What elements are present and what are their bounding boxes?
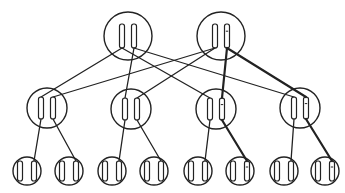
- chromosome-bar: [220, 98, 225, 120]
- chromosome-bar: [32, 161, 37, 181]
- node-b3: [98, 157, 126, 185]
- edge: [53, 119, 76, 161]
- node-m2: [111, 89, 151, 129]
- chromosome-bar: [159, 161, 164, 181]
- chromosome-bar: [245, 161, 250, 181]
- nodes-layer: [13, 12, 339, 185]
- chromosome-bar: [103, 161, 108, 181]
- chromosome-bar: [117, 161, 122, 181]
- tree-diagram: [0, 0, 345, 193]
- edge-highlighted: [306, 119, 332, 161]
- edge: [137, 48, 215, 98]
- node-circle: [104, 12, 152, 60]
- chromosome-bar: [60, 161, 65, 181]
- chromosome-bar: [189, 161, 194, 181]
- chromosome-bar: [74, 161, 79, 181]
- chromosome-bar: [120, 24, 125, 48]
- chromosome-bar: [132, 24, 137, 48]
- chromosome-bar: [330, 161, 335, 181]
- node-circle: [197, 12, 245, 60]
- node-b2: [55, 157, 83, 185]
- chromosome-bar: [135, 98, 140, 120]
- node-b6: [226, 157, 254, 185]
- chromosome-bar: [18, 161, 23, 181]
- chromosome-bar: [292, 97, 297, 119]
- chromosome-bar: [208, 98, 213, 120]
- node-t1: [104, 12, 152, 60]
- node-b5: [184, 157, 212, 185]
- chromosome-bar: [123, 98, 128, 120]
- chromosome-bar: [225, 24, 230, 48]
- node-m3: [196, 89, 236, 129]
- edge: [137, 120, 161, 161]
- node-b7: [270, 157, 298, 185]
- chromosome-bar: [145, 161, 150, 181]
- tree-diagram-canvas: [0, 0, 345, 193]
- chromosome-bar: [51, 97, 56, 119]
- node-b4: [140, 157, 168, 185]
- chromosome-bar: [39, 97, 44, 119]
- edge: [41, 48, 122, 97]
- edge-highlighted: [222, 120, 247, 161]
- chromosome-bar: [203, 161, 208, 181]
- node-b8: [311, 157, 339, 185]
- node-circle: [196, 89, 236, 129]
- chromosome-bar: [231, 161, 236, 181]
- chromosome-bar: [275, 161, 280, 181]
- node-circle: [111, 89, 151, 129]
- node-b1: [13, 157, 41, 185]
- chromosome-bar: [289, 161, 294, 181]
- edge-highlighted: [227, 48, 306, 97]
- chromosome-bar: [304, 97, 309, 119]
- chromosome-bar: [316, 161, 321, 181]
- chromosome-bar: [213, 24, 218, 48]
- node-t2: [197, 12, 245, 60]
